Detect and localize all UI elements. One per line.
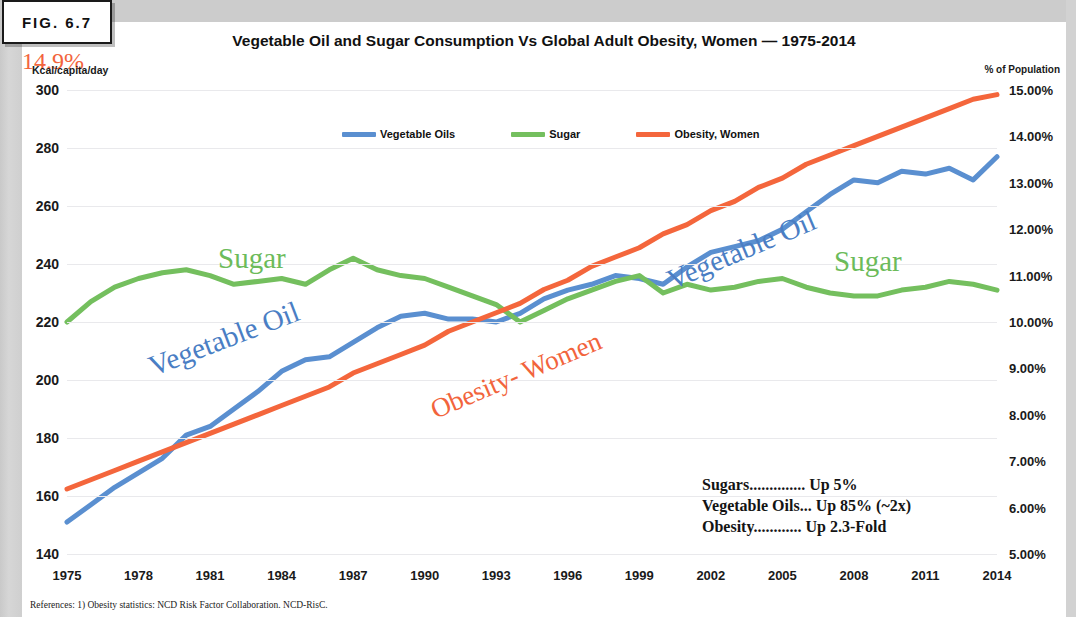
y-axis-left-tick: 180 (36, 430, 59, 446)
gridline (67, 438, 997, 439)
figure-page: FIG. 6.7 Vegetable Oil and Sugar Consump… (0, 0, 1076, 617)
references-footnote: References: 1) Obesity statistics: NCD R… (30, 600, 1060, 610)
y-axis-left-tick: 280 (36, 140, 59, 156)
summary-row-obesity: Obesity............ Up 2.3-Fold (702, 516, 911, 537)
y-axis-right-tick: 10.00% (1009, 315, 1053, 330)
y-axis-left-tick: 220 (36, 314, 59, 330)
annotation-sugar-left: Sugar (218, 242, 286, 275)
y-axis-right-tick: 15.00% (1009, 83, 1053, 98)
y-axis-left-tick: 160 (36, 488, 59, 504)
y-axis-right-tick: 9.00% (1009, 361, 1046, 376)
chart-card: Vegetable Oil and Sugar Consumption Vs G… (22, 22, 1066, 594)
y-axis-right-tick: 11.00% (1009, 268, 1052, 283)
annotation-end-value: 14.9% (22, 48, 1066, 75)
x-axis-tick: 2005 (768, 568, 797, 583)
page-top-band (22, 0, 1076, 22)
y-axis-right-tick: 7.00% (1009, 454, 1046, 469)
x-axis-tick: 1981 (196, 568, 225, 583)
summary-box: Sugars.............. Up 5% Vegetable Oil… (702, 474, 911, 537)
x-axis-tick: 1999 (625, 568, 654, 583)
figure-number-label: FIG. 6.7 (22, 14, 92, 31)
y-axis-right-tick: 13.00% (1009, 175, 1053, 190)
y-axis-right-tick: 5.00% (1009, 547, 1046, 562)
gridline (67, 90, 997, 91)
legend-label: Vegetable Oils (380, 128, 455, 140)
x-axis-tick: 2011 (911, 568, 939, 583)
y-axis-right-tick: 6.00% (1009, 500, 1046, 515)
chart-legend: Vegetable Oils Sugar Obesity, Women (342, 128, 760, 140)
gridline (67, 554, 997, 555)
page-gutter (0, 0, 22, 617)
y-axis-right-tick: 14.00% (1009, 129, 1053, 144)
gridline (67, 148, 997, 149)
legend-label: Obesity, Women (674, 128, 759, 140)
x-axis-tick: 1978 (124, 568, 153, 583)
figure-number-box: FIG. 6.7 (2, 0, 112, 44)
x-axis-tick: 2002 (696, 568, 725, 583)
legend-item-vegetable-oils[interactable]: Vegetable Oils (342, 128, 455, 140)
x-axis-tick: 1975 (53, 568, 82, 583)
chart-title: Vegetable Oil and Sugar Consumption Vs G… (22, 32, 1066, 50)
summary-row-vegetable-oils: Vegetable Oils... Up 85% (~2x) (702, 495, 911, 516)
legend-item-obesity-women[interactable]: Obesity, Women (636, 128, 759, 140)
x-axis-tick: 1987 (339, 568, 368, 583)
x-axis-tick: 2014 (983, 568, 1012, 583)
gridline (67, 206, 997, 207)
legend-item-sugar[interactable]: Sugar (511, 128, 580, 140)
x-axis-tick: 1996 (553, 568, 582, 583)
y-axis-left-tick: 240 (36, 256, 59, 272)
y-axis-right-unit-label: % of Population (984, 64, 1060, 75)
y-axis-right-tick: 12.00% (1009, 222, 1053, 237)
legend-swatch-icon (636, 132, 670, 137)
page-right-band (1066, 0, 1076, 617)
legend-label: Sugar (549, 128, 580, 140)
legend-swatch-icon (342, 132, 376, 137)
y-axis-left-tick: 140 (36, 546, 59, 562)
y-axis-left-tick: 260 (36, 198, 59, 214)
y-axis-left-unit-label: Kcal/capita/day (32, 64, 108, 76)
x-axis-tick: 2008 (839, 568, 868, 583)
x-axis-tick: 1984 (267, 568, 296, 583)
x-axis-tick: 1990 (410, 568, 439, 583)
annotation-sugar-right: Sugar (834, 245, 902, 278)
gridline (67, 322, 997, 323)
y-axis-left-tick: 300 (36, 82, 59, 98)
y-axis-right-tick: 8.00% (1009, 407, 1046, 422)
legend-swatch-icon (511, 132, 545, 137)
y-axis-left-tick: 200 (36, 372, 59, 388)
summary-row-sugars: Sugars.............. Up 5% (702, 474, 911, 495)
x-axis-tick: 1993 (482, 568, 511, 583)
